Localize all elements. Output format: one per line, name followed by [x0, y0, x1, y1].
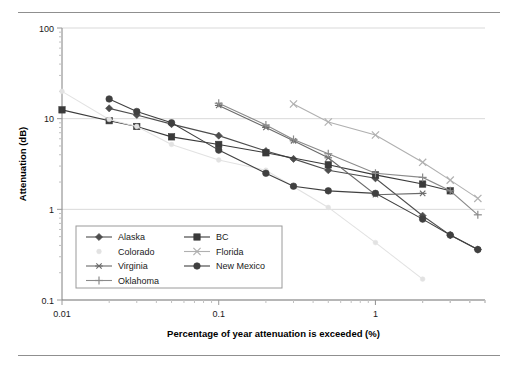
y-tick-label: 0.1 — [41, 296, 54, 306]
marker-plus — [215, 99, 223, 107]
marker-plus — [419, 173, 427, 181]
legend-label: New Mexico — [216, 261, 265, 271]
marker-circle — [194, 263, 201, 270]
marker-circle — [106, 96, 113, 103]
legend-label: Colorado — [118, 247, 155, 257]
series-oklahoma — [215, 99, 482, 219]
marker-circle — [290, 183, 297, 190]
marker-diamond — [215, 132, 222, 139]
figure-container: 0.11101000.010.11 AlaskaBCColoradoFlorid… — [0, 0, 508, 370]
marker-cross-x — [474, 195, 481, 202]
marker-cross-x — [419, 159, 426, 166]
marker-dot — [169, 142, 174, 147]
bottom-horizontal-rule — [18, 355, 500, 356]
marker-circle — [215, 147, 222, 154]
legend-label: Alaska — [118, 232, 145, 242]
y-tick-label: 1 — [49, 205, 54, 215]
legend-label: BC — [216, 232, 229, 242]
legend-label: Florida — [216, 247, 244, 257]
marker-circle — [447, 232, 454, 239]
marker-square — [168, 134, 174, 140]
marker-square — [263, 150, 269, 156]
marker-circle — [133, 108, 140, 115]
series-bc — [59, 107, 454, 194]
marker-cross-x — [447, 177, 454, 184]
marker-square — [419, 181, 425, 187]
marker-cross-x — [290, 100, 297, 107]
top-horizontal-rule — [18, 12, 500, 13]
legend-box — [76, 226, 282, 288]
marker-square — [325, 162, 331, 168]
marker-circle — [325, 188, 332, 195]
x-tick-label: 0.01 — [53, 309, 71, 319]
y-tick-label: 10 — [44, 114, 54, 124]
marker-cross-x — [372, 131, 379, 138]
marker-diamond — [106, 105, 113, 112]
marker-square — [59, 107, 65, 113]
marker-dot — [97, 249, 102, 254]
marker-circle — [168, 120, 175, 127]
marker-dot — [326, 205, 331, 210]
attenuation-log-log-chart: 0.11101000.010.11 AlaskaBCColoradoFlorid… — [0, 0, 508, 370]
legend-label: Virginia — [118, 261, 148, 271]
x-tick-label: 1 — [373, 309, 378, 319]
marker-cross-x — [325, 118, 332, 125]
marker-dot — [60, 89, 65, 94]
marker-circle — [475, 246, 482, 253]
marker-square — [194, 234, 200, 240]
legend-label: Oklahoma — [118, 276, 159, 286]
marker-dot — [134, 124, 139, 129]
marker-dot — [216, 158, 221, 163]
marker-circle — [263, 170, 270, 177]
marker-dot — [420, 277, 425, 282]
marker-circle — [419, 216, 426, 223]
marker-circle — [372, 190, 379, 197]
x-tick-label: 0.1 — [212, 309, 225, 319]
marker-dot — [373, 240, 378, 245]
series-line — [219, 103, 478, 215]
chart-legend: AlaskaBCColoradoFloridaVirginiaNew Mexic… — [76, 226, 282, 288]
x-axis-title: Percentage of year attenuation is exceed… — [167, 328, 380, 339]
y-axis-title: Attenuation (dB) — [17, 127, 28, 201]
marker-dot — [107, 117, 112, 122]
y-tick-label: 100 — [39, 24, 54, 34]
marker-asterisk — [419, 191, 427, 196]
